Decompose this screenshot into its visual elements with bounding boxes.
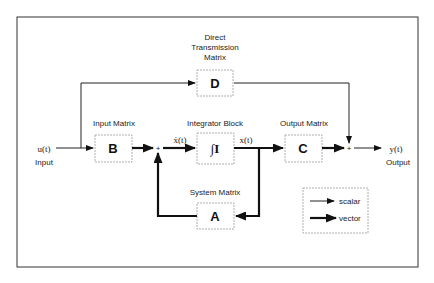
integrator-block-title: Integrator Block	[187, 119, 244, 128]
sum1-symbol: +	[156, 144, 161, 153]
state-space-diagram: Direct Transmission Matrix D u(t) Input …	[0, 0, 434, 283]
d-block-title-line1: Direct	[205, 33, 227, 42]
d-output-line	[234, 83, 349, 143]
c-block-title: Output Matrix	[280, 119, 328, 128]
d-block-label: D	[210, 76, 219, 91]
input-label: Input	[35, 158, 54, 167]
a-block-title: System Matrix	[190, 188, 241, 197]
integrator-block-label: ∫I	[210, 141, 220, 157]
b-block-label: B	[108, 141, 117, 156]
a-output-line	[158, 153, 197, 216]
d-block-title-line3: Matrix	[204, 53, 226, 62]
legend-box	[303, 188, 368, 233]
output-label: Output	[386, 158, 411, 167]
legend-vector-label: vector	[339, 214, 361, 223]
b-block-title: Input Matrix	[93, 119, 135, 128]
output-signal-label: y(t)	[390, 144, 403, 154]
xdot-signal-label: ẋ(t)	[174, 135, 187, 145]
c-block-label: C	[298, 141, 308, 156]
sum2-symbol: +	[347, 144, 352, 153]
d-block-title-line2: Transmission	[191, 43, 238, 52]
a-block-label: A	[210, 209, 220, 224]
feedback-to-a-line	[236, 148, 259, 216]
x-signal-label: x(t)	[240, 135, 253, 145]
input-signal-label: u(t)	[38, 144, 51, 154]
legend-scalar-label: scalar	[339, 197, 361, 206]
